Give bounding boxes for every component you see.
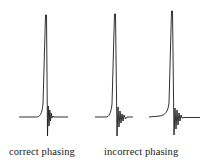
incorrect-phasing-spectrum-1 bbox=[95, 14, 133, 136]
incorrect-phasing-spectrum-2 bbox=[149, 11, 200, 135]
correct-phasing-spectrum bbox=[19, 15, 68, 136]
spectra-plot bbox=[0, 0, 204, 167]
phasing-figure: correct phasing incorrect phasing bbox=[0, 0, 204, 167]
correct-phasing-label: correct phasing bbox=[9, 146, 75, 157]
incorrect-phasing-label: incorrect phasing bbox=[104, 146, 178, 157]
